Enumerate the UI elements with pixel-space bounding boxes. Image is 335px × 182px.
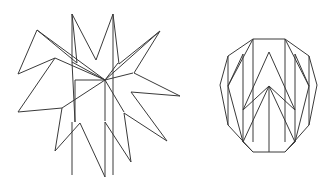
decagon-line-peak-right: [269, 52, 295, 110]
decagon-line-zigzag-left: [243, 86, 269, 142]
decagon-line-zigzag-right: [269, 86, 295, 142]
shape-decagon-with-zigzag: [220, 39, 317, 152]
shape-eleven-pointed-star: [18, 14, 180, 177]
star-line-c: [37, 30, 105, 80]
decagon-interior-lines: [228, 39, 309, 152]
star-line-d: [62, 80, 105, 108]
decagon-line-peak-left: [243, 52, 269, 110]
decagon-line-low-right-edge: [285, 142, 295, 152]
decagon-line-upper-right-notch: [295, 54, 309, 86]
decagon-line-upper-left-notch: [228, 54, 243, 86]
figure-canvas: [0, 0, 335, 182]
decagon-line-hub-left: [243, 86, 269, 110]
geometry-figure: [0, 0, 335, 182]
decagon-line-hub-right: [269, 86, 295, 110]
decagon-line-low-left-edge: [243, 142, 253, 152]
star-line-g: [105, 80, 124, 112]
star-outline: [18, 14, 180, 177]
